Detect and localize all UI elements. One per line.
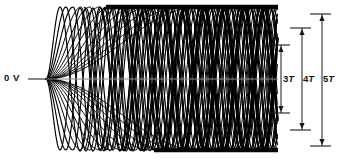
dimension-arrowhead-top-4T (299, 29, 304, 35)
dimension-arrowhead-bottom-5T (319, 139, 324, 145)
dimension-label-5t: 5T (323, 74, 334, 84)
dimension-label-3t-symbol: T (288, 73, 294, 84)
dimension-label-4t-symbol: T (308, 73, 314, 84)
dimension-label-5t-symbol: T (328, 73, 334, 84)
dimension-arrowhead-top-5T (319, 15, 324, 21)
dimension-arrowhead-bottom-4T (299, 123, 304, 129)
dimension-label-3t: 3T (283, 74, 294, 84)
dimension-arrowhead-bottom-3T (278, 106, 283, 112)
dimension-arrows (269, 14, 331, 146)
dimension-label-4t: 4T (303, 74, 314, 84)
dimension-arrowhead-top-3T (278, 46, 283, 52)
eye-diagram-figure: 0 V 3T 4T 5T (0, 0, 344, 161)
zero-volt-label: 0 V (4, 73, 20, 83)
